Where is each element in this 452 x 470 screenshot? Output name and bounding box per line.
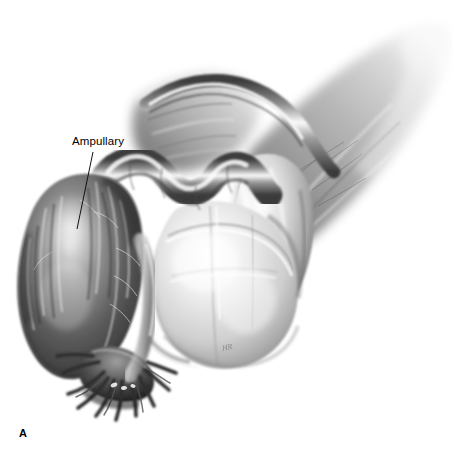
anatomical-illustration (0, 0, 452, 470)
figure-panel: Ampullary HR A (0, 0, 452, 470)
